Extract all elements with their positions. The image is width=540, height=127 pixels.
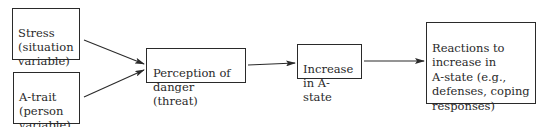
node-stress: Stress (situation variable) [12,8,80,60]
node-perception-of-danger: Perception of danger (threat) [146,48,246,83]
node-increase-in-a-state: Increase in A-state [297,44,362,79]
arrow-perception-to-increase [248,63,295,65]
diagram-canvas: Stress (situation variable) A-trait (per… [0,0,540,127]
arrow-atrait-to-perception [84,70,144,97]
arrow-stress-to-perception [84,40,144,64]
node-a-trait-label: A-trait (person variable) [19,90,71,127]
node-reactions: Reactions to increase in A-state (e.g., … [426,22,536,104]
node-a-trait: A-trait (person variable) [13,72,80,124]
node-reactions-label: Reactions to increase in A-state (e.g., … [432,41,530,113]
node-stress-label: Stress (situation variable) [18,26,74,68]
